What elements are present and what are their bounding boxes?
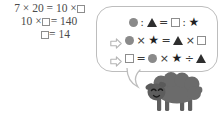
circle-icon (125, 36, 134, 45)
triangle-icon (147, 18, 157, 27)
equation-line-3: = 14 (0, 28, 98, 41)
circle-icon (148, 54, 157, 63)
equation-line-1: 7 × 20 = 10 × (0, 2, 98, 15)
equation-line-3-post: = 14 (49, 28, 70, 40)
unknown-box-icon (77, 5, 85, 13)
bubble-line-solve-for-box: = × ★ ÷ (97, 49, 219, 67)
square-icon (125, 54, 134, 63)
bubble-line-cross-product: × ★ = × (97, 31, 219, 49)
triangle-icon (196, 54, 206, 63)
unknown-box-icon (41, 31, 49, 39)
divide-operator: ÷ (185, 53, 194, 64)
right-arrow-icon (110, 53, 122, 64)
multiply-operator: × (160, 53, 169, 64)
multiply-operator: × (186, 35, 195, 46)
speech-bubble: : = : ★ × ★ = × (96, 6, 218, 72)
equals-operator: = (162, 35, 171, 46)
worked-solution-block: 7 × 20 = 10 × 10 ×= 140 = 14 (0, 2, 98, 41)
equals-operator: = (159, 17, 168, 28)
sheep-icon (144, 72, 208, 114)
equals-operator: = (137, 53, 146, 64)
right-arrow-icon (110, 35, 122, 46)
equation-line-2-post: = 140 (51, 15, 78, 27)
unknown-box-icon (42, 18, 50, 26)
square-icon (197, 36, 206, 45)
bubble-line-proportion: : = : ★ (97, 13, 219, 31)
triangle-icon (173, 36, 183, 45)
worksheet-illustration: 7 × 20 = 10 × 10 ×= 140 = 14 : = : ★ (0, 0, 219, 114)
multiply-operator: × (137, 35, 146, 46)
star-icon: ★ (188, 18, 199, 27)
ratio-colon-operator: : (140, 17, 144, 28)
square-icon (171, 18, 180, 27)
star-icon: ★ (171, 54, 182, 63)
circle-icon (129, 18, 138, 27)
ratio-colon-operator: : (182, 17, 186, 28)
equation-line-1-pre: 7 × 20 = 10 × (14, 2, 77, 14)
star-icon: ★ (148, 36, 159, 45)
equation-line-2: 10 ×= 140 (0, 15, 98, 28)
equation-line-2-pre: 10 × (21, 15, 42, 27)
